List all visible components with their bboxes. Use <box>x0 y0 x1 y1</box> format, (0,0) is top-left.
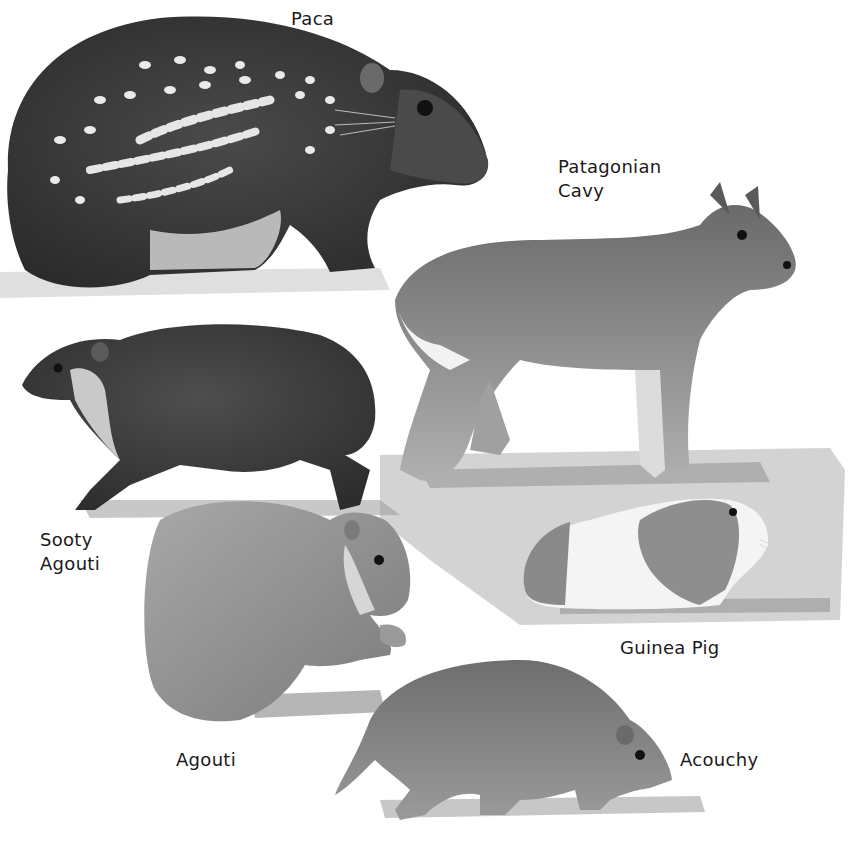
label-acouchy: Acouchy <box>680 748 758 771</box>
animal-illustration-plate: Paca Patagonian Cavy Sooty Agouti Guinea… <box>0 0 861 852</box>
label-patagonian-cavy-line2: Cavy <box>558 179 604 202</box>
label-agouti: Agouti <box>176 748 236 771</box>
label-paca: Paca <box>291 7 334 30</box>
illustration-artwork <box>0 0 861 852</box>
patagonian-cavy-illustration <box>395 182 796 481</box>
acouchy-illustration <box>335 660 672 820</box>
agouti-illustration <box>144 501 410 721</box>
label-sooty-agouti-line1: Sooty <box>40 528 93 551</box>
label-sooty-agouti-line2: Agouti <box>40 552 100 575</box>
sooty-agouti-illustration <box>22 324 375 510</box>
label-guinea-pig: Guinea Pig <box>620 636 719 659</box>
paca-illustration <box>7 17 488 288</box>
label-patagonian-cavy-line1: Patagonian <box>558 155 661 178</box>
